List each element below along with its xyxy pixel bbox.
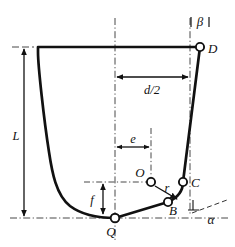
- point-label-Q: Q: [106, 224, 116, 239]
- point-marker-D: [196, 43, 204, 51]
- dimension-d2-label: d/2: [144, 83, 160, 97]
- point-marker-O: [147, 178, 155, 186]
- dimension-e-group: e: [117, 132, 149, 147]
- dimension-L-label: L: [12, 129, 20, 143]
- dimension-e-label: e: [130, 132, 136, 146]
- point-marker-Q: [111, 214, 120, 223]
- point-marker-C: [179, 178, 187, 186]
- diagram-canvas: L d/2 e f r D C B: [0, 0, 235, 247]
- figure-container: L d/2 e f r D C B: [0, 0, 235, 247]
- dimension-r-group: r: [155, 181, 177, 199]
- dimension-f-label: f: [90, 193, 95, 207]
- point-label-O: O: [135, 165, 145, 180]
- point-label-D: D: [207, 41, 218, 56]
- dimension-f-group: f: [90, 184, 103, 214]
- construction-lines-group: [10, 18, 228, 240]
- angle-label-beta: β: [196, 14, 204, 29]
- dimension-L-group: L: [12, 49, 24, 216]
- point-label-C: C: [191, 175, 200, 190]
- vessel-profile-outline: [38, 47, 200, 218]
- dimension-d2-group: d/2: [117, 77, 188, 97]
- vessel-profile-group: [38, 47, 200, 218]
- angle-label-alpha: α: [208, 212, 216, 227]
- point-label-B: B: [169, 203, 177, 218]
- dimension-r-label: r: [165, 181, 170, 195]
